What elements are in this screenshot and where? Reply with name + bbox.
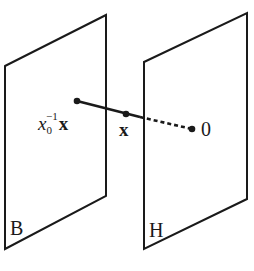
dashed-segment <box>140 117 192 129</box>
point-x0-inverse-x <box>74 98 81 105</box>
plane-b <box>5 15 106 249</box>
diagram-canvas: x0−1x x 0 B H <box>0 0 254 271</box>
point-origin <box>189 126 196 133</box>
label-x0-inverse-x: x0−1x <box>37 110 69 136</box>
point-x <box>123 111 130 118</box>
label-origin: 0 <box>201 118 211 140</box>
label-x: x <box>119 119 129 140</box>
solid-segment <box>77 101 140 117</box>
label-plane-h: H <box>149 219 163 241</box>
label-plane-b: B <box>10 217 23 239</box>
plane-h <box>144 13 247 249</box>
